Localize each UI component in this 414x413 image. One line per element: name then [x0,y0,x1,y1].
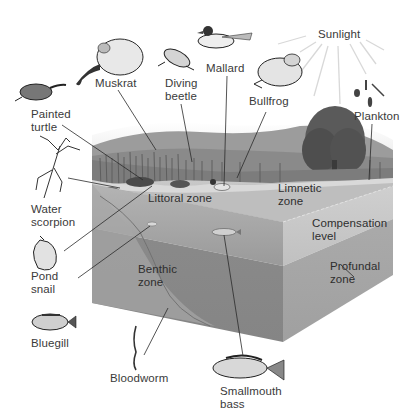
bloodworm-text: Bloodworm [110,372,168,385]
muskrat-text: Muskrat [95,77,137,90]
label-mallard: Mallard [206,62,244,75]
mallard-text: Mallard [206,62,244,75]
label-bluegill: Bluegill [31,337,69,350]
limnetic-text-2: zone [278,195,322,208]
profundal-text-2: zone [330,273,380,286]
label-profundal-zone: Profundal zone [330,260,380,286]
water-scorpion-icon [36,136,80,198]
label-plankton: Plankton [354,110,400,123]
plankton-icon [354,80,384,107]
bluegill-text: Bluegill [31,337,69,350]
benthic-text-1: Benthic [138,263,177,276]
bullfrog-icon [254,54,302,88]
label-pond-snail: Pond snail [31,270,58,296]
label-painted-turtle: Painted turtle [31,108,71,134]
pond-snail-icon [33,236,56,270]
smallmouth-bass-text-2: bass [220,398,282,411]
plankton-text: Plankton [354,110,400,123]
label-compensation-level: Compensation level [312,217,387,243]
painted-turtle-text-2: turtle [31,121,71,134]
bloodworm-icon [134,326,136,370]
label-benthic-zone: Benthic zone [138,263,177,289]
smallmouth-bass-icon [213,355,284,380]
littoral-zone-text: Littoral zone [148,192,212,205]
lake-ecosystem-diagram: Sunlight Muskrat Diving beetle Mallard B… [0,0,414,413]
mallard-icon [197,26,252,48]
label-bullfrog: Bullfrog [249,95,289,108]
label-muskrat: Muskrat [95,77,137,90]
benthic-text-2: zone [138,276,177,289]
label-water-scorpion: Water scorpion [31,203,75,229]
water-scorpion-text-2: scorpion [31,216,75,229]
diving-beetle-text-1: Diving [165,77,198,90]
pond-snail-text-2: snail [31,283,58,296]
pond-snail-text-1: Pond [31,270,58,283]
label-sunlight: Sunlight [318,28,360,41]
compensation-text-2: level [312,230,387,243]
label-bloodworm: Bloodworm [110,372,168,385]
smallmouth-bass-text-1: Smallmouth [220,385,282,398]
water-scorpion-text-1: Water [31,203,75,216]
bullfrog-text: Bullfrog [249,95,289,108]
painted-turtle-text-1: Painted [31,108,71,121]
label-limnetic-zone: Limnetic zone [278,182,322,208]
painted-turtle-icon [15,84,66,101]
limnetic-text-1: Limnetic [278,182,322,195]
sunlight-text: Sunlight [318,28,360,41]
label-diving-beetle: Diving beetle [165,77,198,103]
diving-beetle-text-2: beetle [165,90,198,103]
label-littoral-zone: Littoral zone [148,192,212,205]
compensation-text-1: Compensation [312,217,387,230]
diving-beetle-icon [158,45,194,71]
label-smallmouth-bass: Smallmouth bass [220,385,282,411]
bluegill-icon [32,314,76,330]
profundal-text-1: Profundal [330,260,380,273]
